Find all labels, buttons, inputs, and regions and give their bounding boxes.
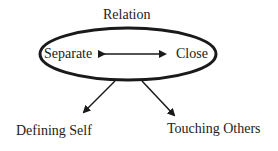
touching-others-label: Touching Others [167,122,261,136]
title-label: Relation [103,8,150,22]
separate-label: Separate [44,47,92,61]
defining-self-label: Defining Self [16,124,92,138]
arrow-to-touching-others [142,81,174,115]
close-label: Close [176,47,208,61]
arrow-to-defining-self [84,81,115,112]
